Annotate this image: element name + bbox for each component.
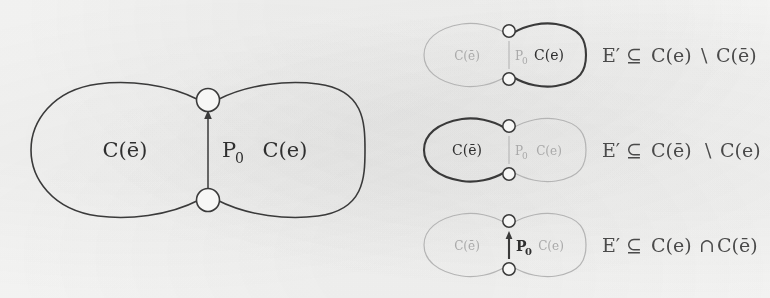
case-1-p0-label-subscript: 0 (522, 56, 528, 66)
case-1-formula-relation: ⊆ (626, 44, 642, 66)
main-p0-label: P 0 (222, 138, 244, 166)
case-2-formula-operator: \ (705, 139, 712, 161)
case-2-formula: E′ ⊆ C(ē) \ C(e) (602, 139, 761, 161)
case-3-diagram: C(ē) C(e) P 0 E′ ⊆ C(e) ∩ C(ē) (424, 213, 758, 276)
case-3-formula-operator: ∩ (699, 234, 715, 256)
case-3-formula-operand-right: C(ē) (717, 234, 758, 256)
main-left-region-label: C(ē) (103, 138, 148, 162)
case-1-right-region-label: C(e) (534, 47, 564, 63)
case-3-node-top (503, 215, 515, 227)
case-3-p0-label: P 0 (516, 238, 532, 257)
case-2-formula-operand-left: C(ē) (651, 139, 692, 161)
case-2-p0-label: P 0 (515, 144, 528, 161)
main-p0-label-subscript: 0 (235, 150, 244, 166)
case-1-node-bottom (503, 73, 515, 85)
case-1-formula-set: E′ (602, 44, 620, 66)
case-2-diagram: C(ē) C(e) P 0 E′ ⊆ C(ē) \ C(e) (424, 118, 761, 181)
case-2-right-region-label: C(e) (536, 144, 562, 158)
case-3-p0-arrowhead-icon (506, 231, 513, 239)
case-1-p0-label: P 0 (515, 49, 528, 66)
main-node-bottom (197, 189, 220, 212)
case-1-node-top (503, 25, 515, 37)
case-3-right-region-label: C(e) (538, 239, 564, 253)
figure-root: C(ē) C(e) P 0 C(ē) C(e) P 0 (0, 0, 770, 298)
figure-canvas: C(ē) C(e) P 0 C(ē) C(e) P 0 (0, 0, 770, 298)
case-1-left-region-label: C(ē) (454, 49, 480, 63)
case-2-formula-set: E′ (602, 139, 620, 161)
case-3-formula-operand-left: C(e) (651, 234, 692, 256)
case-2-formula-operand-right: C(e) (720, 139, 761, 161)
case-3-node-bottom (503, 263, 515, 275)
case-3-left-region-label: C(ē) (454, 239, 480, 253)
case-1-diagram: C(ē) C(e) P 0 E′ ⊆ C(e) \ C(ē) (424, 23, 757, 86)
case-3-formula-relation: ⊆ (626, 234, 642, 256)
case-2-node-top (503, 120, 515, 132)
main-right-region-label: C(e) (263, 138, 308, 162)
main-node-top (197, 89, 220, 112)
case-1-formula-operand-right: C(ē) (716, 44, 757, 66)
case-1-formula-operator: \ (701, 44, 708, 66)
case-1-formula-operand-left: C(e) (651, 44, 692, 66)
main-diagram: C(ē) C(e) P 0 (31, 83, 365, 218)
case-3-formula: E′ ⊆ C(e) ∩ C(ē) (602, 234, 758, 256)
case-3-p0-label-subscript: 0 (525, 246, 532, 257)
case-2-p0-label-subscript: 0 (522, 151, 528, 161)
case-2-left-region-label: C(ē) (452, 142, 482, 158)
case-3-formula-set: E′ (602, 234, 620, 256)
case-2-node-bottom (503, 168, 515, 180)
case-1-formula: E′ ⊆ C(e) \ C(ē) (602, 44, 757, 66)
case-2-formula-relation: ⊆ (626, 139, 642, 161)
